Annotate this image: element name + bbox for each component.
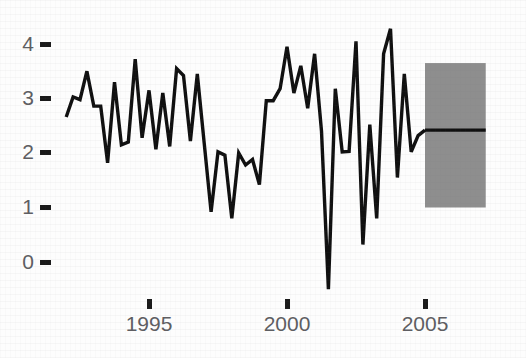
plot-area: 4 3 2 1 0 1995 2000 2005 <box>0 0 526 358</box>
observed-series-line <box>66 29 425 290</box>
forecast-uncertainty-band <box>425 63 486 207</box>
chart-canvas <box>0 0 526 358</box>
chart-figure: 4 3 2 1 0 1995 2000 2005 <box>0 0 526 358</box>
